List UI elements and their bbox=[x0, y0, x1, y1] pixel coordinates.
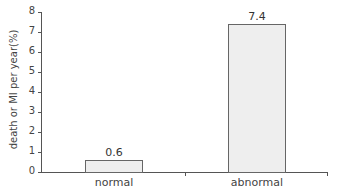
y-tick-label: 8 bbox=[21, 5, 35, 16]
y-tick-label: 7 bbox=[21, 25, 35, 36]
y-tick bbox=[38, 12, 42, 13]
y-tick-label: 1 bbox=[21, 145, 35, 156]
y-tick bbox=[38, 112, 42, 113]
x-tick bbox=[185, 172, 186, 176]
y-tick bbox=[38, 52, 42, 53]
y-tick bbox=[38, 32, 42, 33]
y-tick bbox=[38, 152, 42, 153]
bar-normal bbox=[85, 160, 143, 173]
value-label-abnormal: 7.4 bbox=[227, 10, 287, 23]
y-tick-label: 2 bbox=[21, 125, 35, 136]
x-label-abnormal: abnormal bbox=[207, 176, 307, 188]
y-tick bbox=[38, 172, 42, 173]
y-tick bbox=[38, 92, 42, 93]
y-tick-label: 3 bbox=[21, 105, 35, 116]
y-axis-label: death or MI per year(%) bbox=[8, 25, 19, 155]
value-label-normal: 0.6 bbox=[84, 146, 144, 159]
x-label-normal: normal bbox=[64, 176, 164, 188]
bar-abnormal bbox=[228, 24, 286, 173]
y-tick bbox=[38, 72, 42, 73]
y-tick-label: 6 bbox=[21, 45, 35, 56]
y-tick bbox=[38, 132, 42, 133]
y-tick-label: 0 bbox=[21, 165, 35, 176]
y-tick-label: 5 bbox=[21, 65, 35, 76]
x-tick bbox=[327, 172, 328, 176]
y-tick-label: 4 bbox=[21, 85, 35, 96]
